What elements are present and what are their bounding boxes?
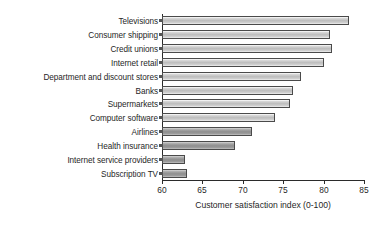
category-label: Airlines	[0, 128, 158, 137]
category-label: Supermarkets	[0, 100, 158, 109]
bar-axis-stub	[159, 75, 163, 78]
bar	[162, 16, 349, 25]
bar-chart: TelevisionsConsumer shippingCredit union…	[0, 0, 388, 227]
x-tick-label: 80	[310, 185, 338, 195]
x-tick	[283, 180, 284, 184]
bar	[162, 155, 185, 164]
bar-axis-stub	[159, 144, 163, 147]
category-label: Computer software	[0, 114, 158, 123]
bar	[162, 169, 187, 178]
bar-axis-stub	[159, 19, 163, 22]
x-tick	[243, 180, 244, 184]
category-label: Subscription TV	[0, 170, 158, 179]
bar	[162, 127, 252, 136]
bar-axis-stub	[159, 33, 163, 36]
bar	[162, 58, 324, 67]
bar	[162, 86, 293, 95]
category-label: Televisions	[0, 17, 158, 26]
bar	[162, 141, 235, 150]
x-tick	[202, 180, 203, 184]
bar	[162, 72, 301, 81]
category-label: Credit unions	[0, 45, 158, 54]
bar-axis-stub	[159, 102, 163, 105]
x-tick	[364, 180, 365, 184]
x-tick-label: 65	[188, 185, 216, 195]
x-axis-line	[162, 180, 364, 181]
bar	[162, 44, 332, 53]
x-tick-label: 85	[350, 185, 378, 195]
x-tick-label: 70	[229, 185, 257, 195]
bar-axis-stub	[159, 116, 163, 119]
x-tick	[162, 180, 163, 184]
x-axis-title: Customer satisfaction index (0-100)	[162, 200, 364, 211]
bar-axis-stub	[159, 158, 163, 161]
category-label: Department and discount stores	[0, 73, 158, 82]
category-axis-labels: TelevisionsConsumer shippingCredit union…	[0, 14, 158, 180]
bar-axis-stub	[159, 130, 163, 133]
bar	[162, 99, 290, 108]
bar-axis-stub	[159, 89, 163, 92]
bar	[162, 30, 330, 39]
x-tick	[324, 180, 325, 184]
x-tick-label: 60	[148, 185, 176, 195]
plot-area	[162, 14, 364, 180]
x-tick-label: 75	[269, 185, 297, 195]
category-label: Internet service providers	[0, 156, 158, 165]
category-label: Internet retail	[0, 59, 158, 68]
bar-axis-stub	[159, 47, 163, 50]
category-label: Consumer shipping	[0, 31, 158, 40]
category-label: Banks	[0, 87, 158, 96]
bar-axis-stub	[159, 61, 163, 64]
bar-axis-stub	[159, 172, 163, 175]
category-label: Health insurance	[0, 142, 158, 151]
bar	[162, 113, 275, 122]
